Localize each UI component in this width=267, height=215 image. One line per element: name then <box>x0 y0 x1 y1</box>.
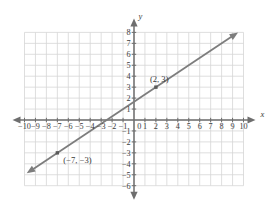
x-tick-label: 9 <box>231 122 235 131</box>
x-tick-label: 6 <box>198 122 202 131</box>
x-tick-label: −4 <box>86 122 95 131</box>
point-label-positive: (2, 3) <box>150 74 169 84</box>
y-tick-label: 5 <box>127 61 131 70</box>
x-tick-label: 3 <box>165 122 169 131</box>
point-label-negative: (−7, −3) <box>63 155 91 165</box>
y-tick-label: −6 <box>122 182 131 191</box>
y-tick-label: 2 <box>127 94 131 103</box>
x-tick-label: 5 <box>187 122 191 131</box>
x-tick-label: −2 <box>108 122 117 131</box>
x-tick-label: 7 <box>209 122 213 131</box>
x-tick-label-zero: 0 <box>137 122 141 131</box>
x-tick-label: 4 <box>176 122 180 131</box>
x-tick-label: −5 <box>75 122 84 131</box>
y-tick-label: −2 <box>122 138 131 147</box>
point-marker <box>56 151 59 154</box>
point-marker <box>154 85 157 88</box>
graph-canvas: −10−9−8−7−6−5−4−3−2−10123456789101234567… <box>0 0 267 215</box>
y-tick-label: 4 <box>127 72 131 81</box>
y-tick-label: −1 <box>122 127 131 136</box>
y-axis-arrow-up <box>130 18 137 26</box>
y-axis-label: y <box>138 11 143 21</box>
x-axis-arrow-right <box>248 116 256 123</box>
x-tick-label: −3 <box>97 122 106 131</box>
x-axis-label: x <box>260 109 265 119</box>
x-tick-label: −8 <box>42 122 51 131</box>
x-tick-label: −9 <box>31 122 40 131</box>
y-axis-arrow-down <box>130 192 137 200</box>
y-tick-label: −4 <box>122 160 131 169</box>
y-tick-label: 1 <box>127 105 131 114</box>
y-tick-label: 3 <box>127 83 131 92</box>
x-tick-label: 8 <box>220 122 224 131</box>
x-tick-label: −7 <box>53 122 62 131</box>
line-arrow-upper-right <box>229 32 238 40</box>
x-tick-label: −10 <box>18 122 31 131</box>
y-tick-label: 8 <box>127 28 131 37</box>
y-tick-label: −3 <box>122 149 131 158</box>
y-tick-label: 6 <box>127 50 131 59</box>
line-arrow-lower-left <box>27 166 36 174</box>
coordinate-plane-graph: −10−9−8−7−6−5−4−3−2−10123456789101234567… <box>0 0 267 215</box>
line-segment <box>30 35 235 172</box>
x-tick-label: −6 <box>64 122 73 131</box>
x-tick-label: 10 <box>239 122 247 131</box>
x-tick-label: 2 <box>154 122 158 131</box>
x-tick-label: 1 <box>143 122 147 131</box>
y-tick-label: 7 <box>127 39 131 48</box>
y-tick-label: −5 <box>122 171 131 180</box>
